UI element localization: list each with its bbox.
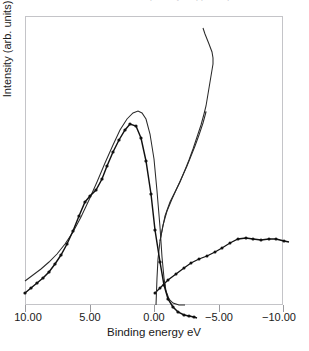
- caption-ghost-text: partially cropped caption text: [150, 0, 264, 1]
- valence-line: [25, 124, 197, 318]
- y-axis-label: Intensity (arb. units): [0, 0, 14, 119]
- background-markers: [154, 237, 286, 295]
- x-tick-label-4: −10.00: [262, 311, 296, 323]
- smooth-fit-line: [25, 111, 185, 305]
- x-tick-label-3: −5.00: [205, 311, 233, 323]
- chart-curves: [25, 16, 283, 305]
- figure-container: partially cropped caption text: [0, 0, 309, 351]
- cropped-caption-strip: partially cropped caption text: [0, 0, 309, 9]
- series-background-markers: [154, 237, 290, 295]
- x-tick-label-0: 10.00: [14, 311, 42, 323]
- x-tick-label-group: 10.00 5.00 0.00 −5.00 −10.00: [0, 311, 309, 325]
- background-line: [155, 238, 289, 293]
- x-axis-label: Binding energy eV: [25, 326, 283, 338]
- x-tick-label-2: 0.00: [143, 311, 164, 323]
- x-tick-label-1: 5.00: [79, 311, 100, 323]
- steep-edge-upper: [160, 28, 213, 241]
- series-steep-edge: [156, 28, 213, 305]
- series-smooth-fit: [25, 111, 185, 305]
